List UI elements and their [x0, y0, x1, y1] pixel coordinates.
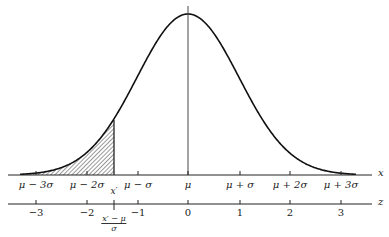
- z-tick-label: 0: [185, 207, 191, 218]
- x-axis-name: x: [378, 167, 384, 178]
- z-tick-label: 3: [338, 207, 344, 218]
- z-tick-label: −3: [29, 207, 44, 218]
- x-tick-label: μ − σ: [124, 179, 152, 190]
- x-tick-label: μ − 2σ: [70, 179, 104, 190]
- z-axis-name: z: [378, 196, 383, 207]
- z-tick-label: −1: [131, 207, 146, 218]
- z-axis-ticks: [36, 200, 341, 204]
- x-tick-label: μ + 3σ: [324, 179, 358, 190]
- x-tick-label: μ: [185, 179, 192, 190]
- normal-curve-figure: [0, 0, 389, 237]
- fraction-denominator: σ: [101, 224, 126, 233]
- z-marker-fraction: x′ − μ σ: [101, 214, 126, 233]
- z-tick-label: 1: [237, 207, 243, 218]
- x-tick-label: μ − 3σ: [19, 179, 53, 190]
- x-tick-label: μ + σ: [226, 179, 254, 190]
- z-tick-label: 2: [287, 207, 293, 218]
- fraction-numerator: x′ − μ: [101, 214, 126, 224]
- x-prime-label: x′: [110, 186, 117, 196]
- shaded-tail-area: [20, 119, 114, 175]
- z-tick-label: −2: [80, 207, 95, 218]
- x-tick-label: μ + 2σ: [273, 179, 307, 190]
